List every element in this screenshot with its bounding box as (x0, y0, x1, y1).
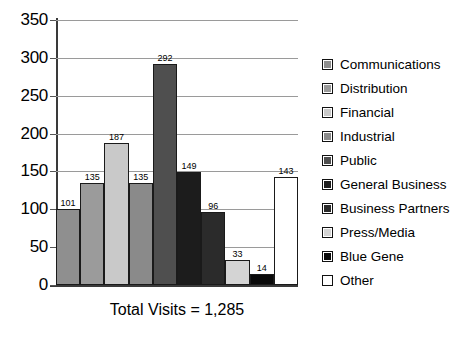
legend-swatch-icon (322, 179, 333, 190)
legend-item[interactable]: Industrial (322, 124, 460, 148)
legend-item[interactable]: Business Partners (322, 196, 460, 220)
bar-value-label: 149 (182, 161, 197, 171)
y-axis-tick-label: 0 (6, 276, 48, 293)
bar-slot: 187 (104, 20, 128, 285)
chart-legend: CommunicationsDistributionFinancialIndus… (322, 52, 460, 292)
legend-item-label: Communications (340, 57, 441, 72)
bar[interactable]: 292 (153, 64, 177, 285)
y-axis-tick-mark (50, 134, 56, 135)
chart-caption: Total Visits = 1,285 (56, 300, 298, 320)
legend-item[interactable]: Other (322, 268, 460, 292)
plot-wrapper: 350300250200150100500 101135187135292149… (0, 0, 310, 300)
bar-slot: 135 (129, 20, 153, 285)
bar-value-label: 101 (61, 198, 76, 208)
y-axis-tick-mark (50, 58, 56, 59)
bar[interactable]: 149 (177, 172, 201, 285)
legend-swatch-icon (322, 251, 333, 262)
y-axis-tick-label: 200 (6, 125, 48, 142)
bar[interactable]: 33 (225, 260, 249, 285)
bar-value-label: 143 (278, 166, 293, 176)
y-axis-tick-label: 100 (6, 200, 48, 217)
bar-value-label: 187 (109, 132, 124, 142)
legend-item[interactable]: General Business (322, 172, 460, 196)
plot-area: 101135187135292149963314143 (56, 20, 298, 285)
bar[interactable]: 143 (274, 177, 298, 285)
bar-slot: 143 (274, 20, 298, 285)
legend-item-label: Public (340, 153, 377, 168)
legend-item-label: Distribution (340, 81, 408, 96)
bar-slot: 101 (56, 20, 80, 285)
bar-value-label: 135 (133, 172, 148, 182)
legend-item-label: Industrial (340, 129, 395, 144)
legend-item-label: Financial (340, 105, 394, 120)
legend-item[interactable]: Communications (322, 52, 460, 76)
y-axis-tick-mark (50, 171, 56, 172)
legend-swatch-icon (322, 275, 333, 286)
y-axis-tick-labels: 350300250200150100500 (0, 0, 48, 300)
bar[interactable]: 96 (201, 212, 225, 285)
y-axis-tick-label: 350 (6, 11, 48, 28)
bar-value-label: 292 (157, 53, 172, 63)
bar-slot: 96 (201, 20, 225, 285)
legend-item[interactable]: Blue Gene (322, 244, 460, 268)
y-axis-tick-mark (50, 285, 56, 286)
y-axis-tick-label: 250 (6, 87, 48, 104)
y-axis-tick-mark (50, 20, 56, 21)
legend-swatch-icon (322, 155, 333, 166)
legend-item[interactable]: Press/Media (322, 220, 460, 244)
bar-slot: 14 (250, 20, 274, 285)
y-axis-tick-label: 300 (6, 49, 48, 66)
y-axis-tick-label: 150 (6, 162, 48, 179)
bar[interactable]: 187 (104, 143, 128, 285)
y-axis-tick-mark (50, 209, 56, 210)
y-axis-tick-mark (50, 96, 56, 97)
bar-series: 101135187135292149963314143 (56, 20, 298, 285)
legend-item-label: Other (340, 273, 374, 288)
legend-swatch-icon (322, 83, 333, 94)
legend-swatch-icon (322, 107, 333, 118)
bar-value-label: 135 (85, 172, 100, 182)
legend-item-label: Press/Media (340, 225, 415, 240)
y-axis-tick-label: 50 (6, 238, 48, 255)
bar[interactable]: 135 (129, 183, 153, 285)
x-axis-line (50, 285, 298, 287)
bar-slot: 292 (153, 20, 177, 285)
legend-item-label: Blue Gene (340, 249, 404, 264)
legend-item[interactable]: Distribution (322, 76, 460, 100)
bar-slot: 149 (177, 20, 201, 285)
bar-value-label: 96 (208, 201, 218, 211)
bar[interactable]: 135 (80, 183, 104, 285)
bar-slot: 135 (80, 20, 104, 285)
legend-item-label: General Business (340, 177, 447, 192)
legend-swatch-icon (322, 59, 333, 70)
bar-value-label: 14 (257, 263, 267, 273)
bar-chart-figure: 350300250200150100500 101135187135292149… (0, 0, 460, 346)
legend-swatch-icon (322, 131, 333, 142)
bar-value-label: 33 (233, 249, 243, 259)
y-axis-tick-mark (50, 247, 56, 248)
legend-swatch-icon (322, 203, 333, 214)
legend-swatch-icon (322, 227, 333, 238)
bar[interactable]: 14 (250, 274, 274, 285)
legend-item-label: Business Partners (340, 201, 450, 216)
bar[interactable]: 101 (56, 209, 80, 285)
bar-slot: 33 (225, 20, 249, 285)
legend-item[interactable]: Financial (322, 100, 460, 124)
legend-item[interactable]: Public (322, 148, 460, 172)
